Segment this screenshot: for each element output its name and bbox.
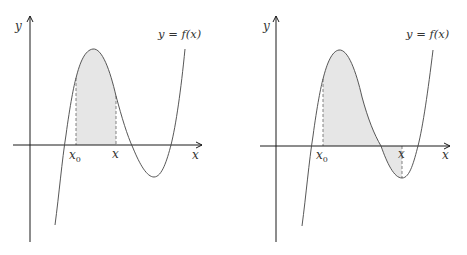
- shaded-area: [76, 49, 116, 145]
- x0-label: x0: [69, 148, 81, 164]
- x0-label: x0: [316, 148, 328, 164]
- figure-canvas: y x y = f(x) x0 x y x y = f(x) x0 x: [0, 0, 467, 255]
- right-figure: y x y = f(x) x0 x: [260, 16, 450, 242]
- function-curve: [55, 49, 185, 225]
- x-axis-label: x: [442, 148, 449, 162]
- x-bound-label: x: [112, 147, 119, 161]
- x-axis-label: x: [192, 148, 199, 162]
- y-axis-label: y: [14, 19, 22, 33]
- curve-label: y = f(x): [405, 27, 449, 41]
- y-axis-label: y: [262, 19, 270, 33]
- left-figure: y x y = f(x) x0 x: [13, 16, 202, 242]
- x-bound-label: x: [398, 147, 405, 161]
- curve-label: y = f(x): [157, 27, 201, 41]
